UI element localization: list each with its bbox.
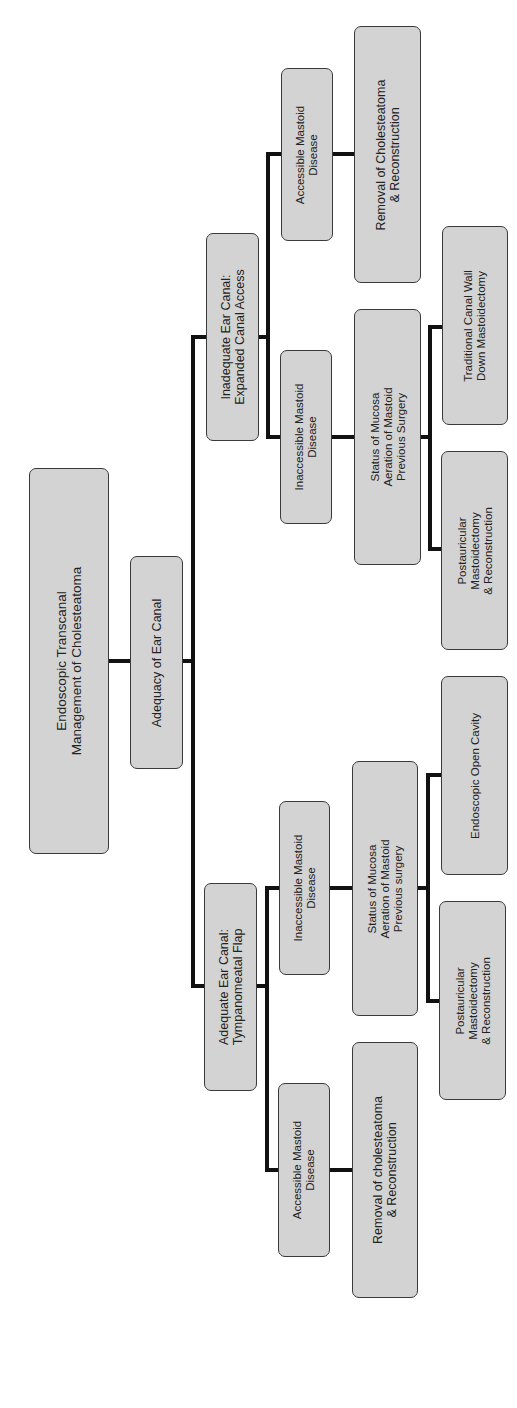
- node-inadequate-ear-canal: Inadequate Ear Canal: Expanded Canal Acc…: [206, 233, 259, 441]
- node-adequacy-of-ear-canal: Adequacy of Ear Canal: [130, 556, 183, 769]
- edge-accessible-to-removal-top: [333, 152, 354, 156]
- node-status-bottom: Status of Mucosa Aeration of Mastoid Pre…: [352, 761, 418, 1016]
- node-accessible-mastoid-top: Accessible Mastoid Disease: [281, 68, 333, 241]
- edge-spine-to-inadequate: [191, 335, 206, 339]
- edge-to-inaccessible-bottom: [265, 886, 279, 890]
- node-postauricular-bottom-label: Postauricular Mastoidectomy & Reconstruc…: [453, 957, 492, 1045]
- node-postauricular-top: Postauricular Mastoidectomy & Reconstruc…: [441, 451, 508, 650]
- edge-inadequate-spine: [266, 152, 270, 439]
- edge-to-postauricular-top: [428, 547, 441, 551]
- edge-status-bottom-spine: [426, 773, 430, 1003]
- edge-accessible-to-removal-bottom: [330, 1168, 352, 1172]
- node-inaccessible-bottom-label: Inaccessible Mastoid Disease: [292, 835, 318, 942]
- node-inadequate-label: Inadequate Ear Canal: Expanded Canal Acc…: [219, 269, 247, 405]
- node-status-top-label: Status of Mucosa Aeration of Mastoid Pre…: [368, 387, 407, 486]
- edge-inaccessible-to-status-top: [332, 435, 354, 439]
- node-removal-bottom: Removal of cholesteatoma & Reconstructio…: [352, 1042, 418, 1298]
- node-traditional-label: Traditional Canal Wall Down Mastoidectom…: [462, 270, 488, 382]
- node-accessible-bottom-label: Accessible Mastoid Disease: [291, 1121, 317, 1219]
- node-accessible-top-label: Accessible Mastoid Disease: [294, 105, 320, 203]
- node-status-top: Status of Mucosa Aeration of Mastoid Pre…: [354, 309, 421, 565]
- node-traditional-canal-wall-down: Traditional Canal Wall Down Mastoidectom…: [442, 226, 508, 425]
- edge-to-traditional: [428, 325, 442, 329]
- node-adequacy-label: Adequacy of Ear Canal: [150, 598, 164, 727]
- node-open-cavity-label: Endoscopic Open Cavity: [468, 713, 481, 839]
- edge-to-inaccessible-top: [266, 435, 280, 439]
- node-inaccessible-mastoid-bottom: Inaccessible Mastoid Disease: [279, 801, 330, 975]
- node-status-bottom-label: Status of Mucosa Aeration of Mastoid Pre…: [366, 839, 405, 938]
- flowchart-canvas: Endoscopic Transcanal Management of Chol…: [0, 0, 517, 1408]
- node-removal-bottom-label: Removal of cholesteatoma & Reconstructio…: [371, 1096, 399, 1244]
- edge-main-spine: [191, 335, 195, 988]
- node-inaccessible-top-label: Inaccessible Mastoid Disease: [293, 384, 319, 491]
- node-adequate-ear-canal: Adequate Ear Canal: Tympanomeatal Flap: [204, 883, 257, 1091]
- edge-adequate-spine: [265, 886, 269, 1172]
- node-adequate-label: Adequate Ear Canal: Tympanomeatal Flap: [217, 929, 245, 1046]
- node-inaccessible-mastoid-top: Inaccessible Mastoid Disease: [280, 350, 332, 524]
- node-postauricular-bottom: Postauricular Mastoidectomy & Reconstruc…: [439, 901, 506, 1100]
- edge-spine-to-adequate: [191, 984, 205, 988]
- node-removal-top: Removal of Cholesteatoma & Reconstructio…: [354, 26, 421, 283]
- edge-status-top-spine: [428, 325, 432, 551]
- edge-to-accessible-bottom: [265, 1168, 278, 1172]
- node-root-label: Endoscopic Transcanal Management of Chol…: [54, 567, 84, 755]
- node-removal-top-label: Removal of Cholesteatoma & Reconstructio…: [374, 79, 402, 230]
- edge-to-accessible-top: [266, 152, 281, 156]
- edge-inaccessible-to-status-bottom: [330, 886, 352, 890]
- node-accessible-mastoid-bottom: Accessible Mastoid Disease: [278, 1083, 330, 1257]
- edge-to-open-cavity: [426, 773, 441, 777]
- node-root: Endoscopic Transcanal Management of Chol…: [29, 468, 109, 854]
- node-endoscopic-open-cavity: Endoscopic Open Cavity: [441, 676, 508, 875]
- edge-root-to-adequacy: [109, 659, 130, 663]
- node-postauricular-top-label: Postauricular Mastoidectomy & Reconstruc…: [455, 507, 494, 595]
- edge-to-postauricular-bottom: [426, 999, 439, 1003]
